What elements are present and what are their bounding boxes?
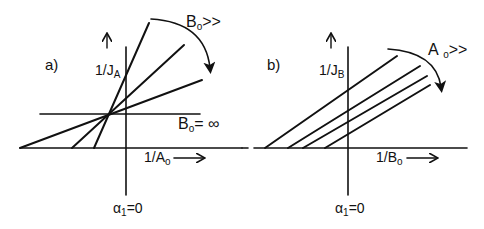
panel-b-arrow-label: A o>> xyxy=(428,42,467,60)
panel-b-line-3 xyxy=(303,76,427,148)
panel-b-y-axis-label: 1/JB xyxy=(319,63,344,80)
panel-b-alpha-label: α1=0 xyxy=(335,201,365,218)
panel-a-x-axis-label: 1/Ao xyxy=(144,150,171,167)
panel-a-arrow-label: Bo>> xyxy=(186,14,221,32)
panel-a-line-2 xyxy=(72,45,184,148)
panel-a-label: a) xyxy=(45,57,58,72)
panel-a-limit-label: Bo= ∞ xyxy=(178,116,219,134)
diagram-canvas xyxy=(0,0,484,229)
panel-a-alpha-label: α1=0 xyxy=(113,201,143,218)
panel-b-x-axis-label: 1/Bo xyxy=(376,150,403,167)
panel-a-plot xyxy=(20,19,242,195)
panel-b-line-2 xyxy=(288,66,420,148)
panel-a-y-axis-label: 1/JA xyxy=(95,63,120,80)
panel-b-label: b) xyxy=(267,57,280,72)
